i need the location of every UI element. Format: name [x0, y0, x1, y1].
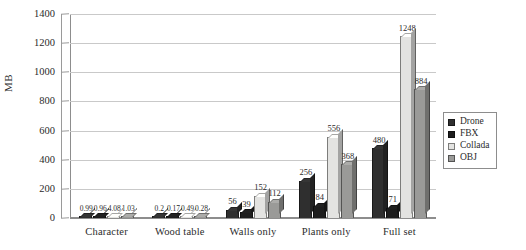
bar-chart: MB 0200400600800100012001400 0.990.964.0… — [0, 0, 526, 250]
y-tick-label: 0 — [50, 213, 55, 224]
bar-obj[interactable]: 884 — [414, 89, 427, 218]
legend-swatch-icon — [448, 119, 455, 126]
x-axis-label: Character — [70, 226, 143, 237]
bar-value-label: 39 — [242, 200, 251, 209]
bar-slot: 556 — [327, 14, 340, 218]
bar-value-label: 84 — [315, 193, 324, 202]
bar-collada[interactable]: 152 — [254, 196, 267, 218]
bar-slot: 368 — [341, 14, 354, 218]
bar-slot: 4.08 — [107, 14, 120, 218]
bar-slot: 1.03 — [121, 14, 134, 218]
bar-value-label: 112 — [268, 189, 280, 198]
bar-value-label: 152 — [254, 183, 267, 192]
bar-value-label: 368 — [341, 152, 354, 161]
bar-slot: 884 — [414, 14, 427, 218]
y-tick-label: 1000 — [34, 67, 55, 78]
x-axis-labels: CharacterWood tableWalls onlyPlants only… — [70, 226, 436, 237]
legend-label: FBX — [460, 129, 478, 139]
bar-value-label: 56 — [228, 197, 237, 206]
y-axis-title: MB — [2, 74, 14, 92]
legend-label: Drone — [460, 117, 484, 127]
bar-value-label: 0.17 — [167, 205, 180, 213]
bar-value-label: 256 — [299, 168, 312, 177]
bar-group: 0.990.964.081.03 — [70, 14, 143, 218]
bar-fbx[interactable]: 0.96 — [93, 216, 106, 218]
bar-value-label: 4.08 — [108, 205, 121, 213]
bar-slot: 1248 — [400, 14, 413, 218]
y-tick-mark — [61, 159, 69, 161]
x-axis-label: Plants only — [290, 226, 363, 237]
bar-fbx[interactable]: 71 — [386, 208, 399, 218]
bar-drone[interactable]: 56 — [226, 210, 239, 218]
bar-group: 5639152112 — [216, 14, 289, 218]
x-axis-label: Full set — [363, 226, 436, 237]
bar-obj[interactable]: 1.03 — [121, 216, 134, 218]
bar-slot: 0.28 — [194, 14, 207, 218]
bar-value-label: 0.2 — [155, 205, 164, 213]
bar-obj[interactable]: 368 — [341, 164, 354, 218]
bar-group: 0.20.170.490.28 — [143, 14, 216, 218]
legend-item-obj[interactable]: OBJ — [448, 152, 490, 164]
y-tick-label: 200 — [39, 184, 55, 195]
bar-value-label: 884 — [415, 77, 428, 86]
legend-label: OBJ — [460, 153, 477, 163]
bar-collada[interactable]: 0.49 — [180, 216, 193, 218]
y-tick-label: 1200 — [34, 38, 55, 49]
bar-slot: 152 — [254, 14, 267, 218]
bar-slot: 0.96 — [93, 14, 106, 218]
legend-swatch-icon — [448, 143, 455, 150]
y-tick-label: 1400 — [34, 9, 55, 20]
x-axis-label: Wood table — [143, 226, 216, 237]
bar-slot: 0.49 — [180, 14, 193, 218]
bar-slot: 56 — [226, 14, 239, 218]
bar-value-label: 1.03 — [122, 205, 135, 213]
y-tick-mark — [61, 217, 69, 219]
bar-slot: 256 — [299, 14, 312, 218]
y-tick-label: 400 — [39, 154, 55, 165]
x-axis-label: Walls only — [216, 226, 289, 237]
bar-slot: 0.2 — [152, 14, 165, 218]
bar-fbx[interactable]: 84 — [313, 206, 326, 218]
y-tick-mark — [61, 130, 69, 132]
bar-slot: 71 — [386, 14, 399, 218]
bar-slot: 112 — [268, 14, 281, 218]
bar-drone[interactable]: 0.99 — [79, 216, 92, 218]
bar-fbx[interactable]: 0.17 — [166, 216, 179, 218]
bar-value-label: 0.99 — [80, 205, 93, 213]
y-tick-label: 600 — [39, 125, 55, 136]
bar-drone[interactable]: 480 — [372, 148, 385, 218]
bar-collada[interactable]: 556 — [327, 137, 340, 218]
y-tick-label: 800 — [39, 96, 55, 107]
bar-value-label: 556 — [327, 124, 340, 133]
bar-group: 25684556368 — [290, 14, 363, 218]
bar-fbx[interactable]: 39 — [240, 212, 253, 218]
bar-value-label: 0.28 — [195, 205, 208, 213]
legend-item-collada[interactable]: Collada — [448, 140, 490, 152]
bar-group: 480711248884 — [363, 14, 436, 218]
bar-collada[interactable]: 4.08 — [107, 216, 120, 218]
bar-groups: 0.990.964.081.030.20.170.490.28563915211… — [70, 14, 436, 218]
bar-value-label: 0.96 — [94, 205, 107, 213]
legend-swatch-icon — [448, 131, 455, 138]
bar-drone[interactable]: 256 — [299, 181, 312, 218]
bar-value-label: 0.49 — [181, 205, 194, 213]
chart-legend: DroneFBXColladaOBJ — [443, 112, 497, 169]
bar-slot: 39 — [240, 14, 253, 218]
gridline — [70, 218, 436, 219]
bar-value-label: 71 — [389, 195, 398, 204]
bar-slot: 0.17 — [166, 14, 179, 218]
bar-slot: 84 — [313, 14, 326, 218]
legend-swatch-icon — [448, 155, 455, 162]
bar-obj[interactable]: 112 — [268, 202, 281, 218]
bar-slot: 480 — [372, 14, 385, 218]
bar-obj[interactable]: 0.28 — [194, 216, 207, 218]
bar-drone[interactable]: 0.2 — [152, 216, 165, 218]
plot-area: 0200400600800100012001400 0.990.964.081.… — [61, 14, 436, 218]
legend-item-fbx[interactable]: FBX — [448, 128, 490, 140]
legend-label: Collada — [460, 141, 490, 151]
bar-collada[interactable]: 1248 — [400, 36, 413, 218]
legend-item-drone[interactable]: Drone — [448, 116, 490, 128]
bar-value-label: 480 — [373, 136, 386, 145]
bar-slot: 0.99 — [79, 14, 92, 218]
